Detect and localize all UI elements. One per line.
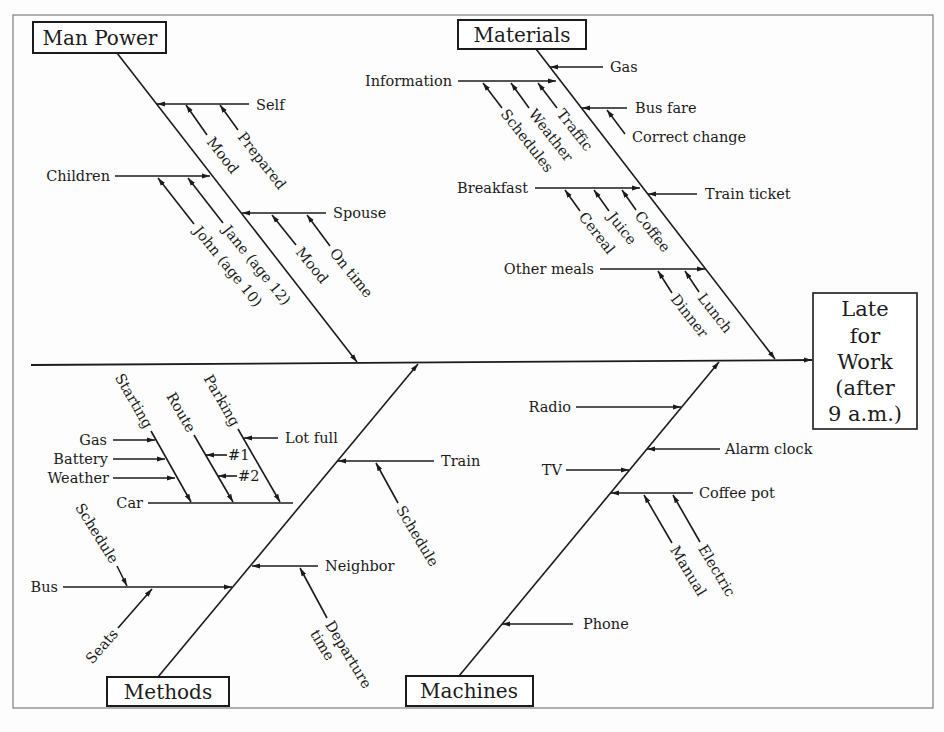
bone-materials <box>536 49 775 359</box>
cause-bus: Bus <box>31 579 58 595</box>
branch-bus-fare-correct-change <box>607 110 625 134</box>
cause-coffee-pot: Coffee pot <box>699 485 775 501</box>
sub-cause-breakfast-coffee: Coffee <box>632 208 674 255</box>
cause-bus-fare: Bus fare <box>635 100 697 116</box>
sub-cause-spouse-on-time: On time <box>327 245 376 301</box>
sub-cause-car-route: Route <box>163 389 199 435</box>
category-label-machines: Machines <box>420 679 518 703</box>
cause-train-ticket: Train ticket <box>705 186 791 202</box>
cause-radio: Radio <box>528 399 571 415</box>
bone-man-power <box>117 53 357 362</box>
sub-cause-starting-gas: Gas <box>79 432 107 448</box>
category-materials: Materials Gas Information Schedules Weat… <box>365 20 791 359</box>
cause-other-meals: Other meals <box>504 261 594 277</box>
category-methods: Methods Car Starting Gas Battery Weather… <box>31 364 481 706</box>
branch-train-schedule <box>376 463 398 503</box>
branch-bus-schedule <box>117 566 127 586</box>
branch-car-parking <box>238 429 280 502</box>
branch-neighbor-departure-time <box>300 568 327 618</box>
cause-self: Self <box>256 97 286 113</box>
branch-children-jane <box>188 178 223 223</box>
cause-car: Car <box>116 495 143 511</box>
category-label-methods: Methods <box>124 680 212 704</box>
category-man-power: Man Power Self Mood Prepared Children Jo… <box>33 22 386 362</box>
cause-tv: TV <box>542 462 563 478</box>
cause-alarm-clock: Alarm clock <box>724 441 813 457</box>
sub-cause-starting-battery: Battery <box>53 451 108 467</box>
category-label-materials: Materials <box>474 23 571 47</box>
bone-methods <box>158 364 418 677</box>
branch-information-schedules <box>483 83 502 108</box>
cause-gas: Gas <box>610 59 638 75</box>
branch-self-mood <box>186 105 207 135</box>
branch-car-route <box>194 435 233 502</box>
sub-cause-bus-schedule: Schedule <box>72 500 122 566</box>
branch-car-starting <box>151 431 191 502</box>
effect-line-3: Work <box>837 350 893 374</box>
cause-train: Train <box>441 453 480 469</box>
branch-breakfast-juice <box>594 190 609 211</box>
sub-cause-car-starting: Starting <box>112 371 156 431</box>
sub-cause-car-parking: Parking <box>201 372 243 429</box>
effect-line-4: (after <box>835 376 895 400</box>
branch-breakfast-coffee <box>622 190 636 210</box>
branch-coffee-pot-electric <box>673 495 700 542</box>
sub-cause-parking-lot-full: Lot full <box>285 430 338 446</box>
sub-cause-route-1: #1 <box>228 447 249 463</box>
branch-information-traffic <box>538 83 557 108</box>
fishbone-diagram: Late for Work (after 9 a.m.) Man Power S… <box>0 0 944 732</box>
sub-cause-self-prepared: Prepared <box>235 129 289 192</box>
sub-cause-bus-fare-correct-change: Correct change <box>632 129 746 145</box>
category-label-man-power: Man Power <box>43 26 158 50</box>
branch-self-prepared <box>220 105 238 130</box>
category-machines: Machines Radio Alarm clock TV Coffee pot… <box>406 362 813 706</box>
cause-information: Information <box>365 73 452 89</box>
branch-children-john <box>158 178 194 224</box>
cause-phone: Phone <box>583 616 629 632</box>
cause-breakfast: Breakfast <box>457 180 528 196</box>
cause-neighbor: Neighbor <box>325 558 395 574</box>
effect-line-5: 9 a.m.) <box>828 402 902 426</box>
sub-cause-starting-weather: Weather <box>47 470 109 486</box>
branch-coffee-pot-manual <box>644 495 672 543</box>
branch-breakfast-cereal <box>565 190 580 211</box>
effect-line-2: for <box>850 324 881 348</box>
branch-other-meals-dinner <box>658 271 672 293</box>
branch-bus-seats <box>118 589 152 628</box>
sub-cause-bus-seats: Seats <box>82 626 121 667</box>
main-spine-arrow <box>31 360 812 365</box>
sub-cause-spouse-mood: Mood <box>293 244 332 286</box>
branch-information-weather <box>511 83 529 108</box>
sub-cause-route-2: #2 <box>238 468 259 484</box>
cause-spouse: Spouse <box>333 205 386 221</box>
effect-line-1: Late <box>841 297 888 321</box>
effect-box: Late for Work (after 9 a.m.) <box>813 293 917 429</box>
sub-cause-train-schedule: Schedule <box>393 503 442 569</box>
branch-spouse-mood <box>272 215 296 245</box>
cause-children: Children <box>46 168 110 184</box>
branch-spouse-on-time <box>307 215 330 246</box>
branch-other-meals-lunch <box>685 271 699 292</box>
